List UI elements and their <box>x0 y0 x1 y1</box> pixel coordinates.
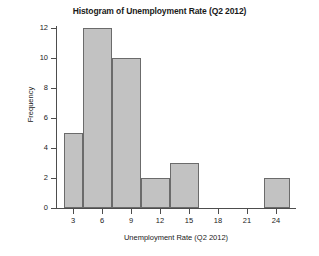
y-axis-tick <box>51 58 56 59</box>
y-axis-tick <box>51 88 56 89</box>
y-axis-tick-label: 6 <box>26 114 48 122</box>
histogram-bar <box>83 28 112 208</box>
x-axis-tick-label: 3 <box>61 217 85 225</box>
y-axis-tick <box>51 148 56 149</box>
x-axis-tick-label: 9 <box>119 217 143 225</box>
x-axis-tick-label: 12 <box>148 217 172 225</box>
x-axis-tick-label: 24 <box>264 217 288 225</box>
y-axis-tick <box>51 28 56 29</box>
y-axis-tick-label: 10 <box>26 54 48 62</box>
histogram-bar <box>64 133 83 208</box>
histogram-bar <box>170 163 199 208</box>
x-axis-tick <box>73 209 74 214</box>
x-axis-tick <box>131 209 132 214</box>
plot-area <box>56 28 295 208</box>
y-axis-tick-label: 0 <box>26 204 48 212</box>
histogram-figure: Histogram of Unemployment Rate (Q2 2012)… <box>0 0 319 256</box>
y-axis-tick <box>51 208 56 209</box>
x-axis-tick-label: 6 <box>90 217 114 225</box>
x-axis-tick <box>276 209 277 214</box>
x-axis-line <box>56 208 296 209</box>
y-axis-tick-label: 8 <box>26 84 48 92</box>
x-axis-tick <box>160 209 161 214</box>
x-axis-tick <box>247 209 248 214</box>
x-axis-tick-label: 21 <box>235 217 259 225</box>
histogram-bar <box>141 178 170 208</box>
y-axis-tick <box>51 118 56 119</box>
histogram-bar <box>264 178 290 208</box>
x-axis-tick <box>218 209 219 214</box>
x-axis-label: Unemployment Rate (Q2 2012) <box>56 233 296 242</box>
x-axis-tick-label: 18 <box>206 217 230 225</box>
y-axis-label: Frequency <box>26 70 35 140</box>
x-axis-tick <box>189 209 190 214</box>
y-axis-tick-label: 12 <box>26 24 48 32</box>
y-axis-line <box>56 26 57 209</box>
chart-title: Histogram of Unemployment Rate (Q2 2012) <box>0 6 319 16</box>
y-axis-tick <box>51 178 56 179</box>
y-axis-tick-label: 2 <box>26 174 48 182</box>
histogram-bar <box>112 58 141 208</box>
x-axis-tick-label: 15 <box>177 217 201 225</box>
x-axis-tick <box>102 209 103 214</box>
y-axis-tick-label: 4 <box>26 144 48 152</box>
